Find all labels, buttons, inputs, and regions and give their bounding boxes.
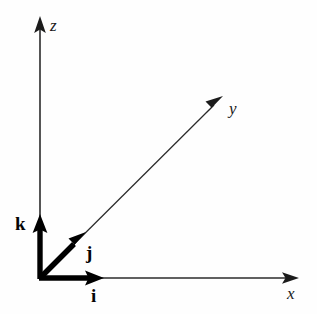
k-vector-label: k bbox=[15, 213, 26, 234]
coordinate-diagram-canvas: z y x k j i bbox=[0, 0, 317, 314]
coordinate-system-figure: z y x k j i bbox=[0, 0, 317, 314]
basis-vector-j bbox=[40, 232, 86, 278]
z-axis-label: z bbox=[49, 16, 57, 35]
y-axis-label: y bbox=[227, 99, 237, 118]
x-axis-label: x bbox=[286, 284, 295, 303]
j-vector-label: j bbox=[85, 242, 92, 263]
i-vector-label: i bbox=[91, 285, 96, 306]
j-vector-shaft bbox=[40, 244, 74, 278]
